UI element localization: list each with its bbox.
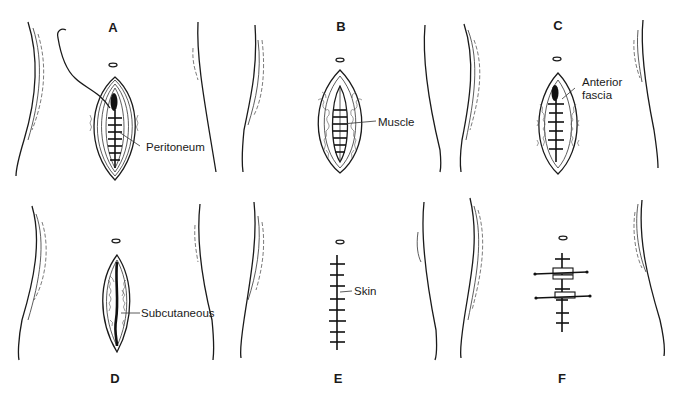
callout-skin: Skin [354,285,376,298]
callout-anterior-fascia: Anterior fascia [582,76,622,102]
panel-label-f: F [558,371,566,386]
panel-label-d: D [110,371,119,386]
panel-d-wound [103,255,140,352]
wound-closure-diagram [0,0,681,398]
callout-anterior-fascia-line1: Anterior [582,76,622,89]
panel-f-wound [533,253,591,332]
panel-c-wound [537,73,579,174]
callout-muscle: Muscle [378,116,414,129]
panel-label-e: E [334,371,343,386]
panel-b-wound [318,70,376,173]
panel-label-c: C [553,18,562,33]
callout-subcutaneous: Subcutaneous [141,307,215,320]
panel-label-b: B [336,19,345,34]
callout-anterior-fascia-line2: fascia [582,89,622,102]
panel-a-wound [58,29,140,180]
panel-e-wound [329,255,352,350]
panel-label-a: A [108,20,117,35]
callout-peritoneum: Peritoneum [146,141,205,154]
suture-thread [58,29,110,108]
